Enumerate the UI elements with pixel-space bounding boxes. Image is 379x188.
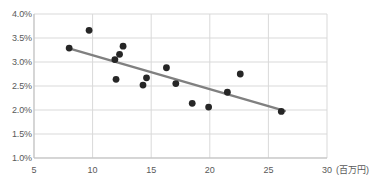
data-point	[116, 51, 123, 58]
data-point	[120, 43, 127, 50]
data-point	[224, 89, 231, 96]
chart-plot-area	[0, 0, 379, 188]
data-point	[111, 56, 118, 63]
scatter-chart: 1.0%1.5%2.0%2.5%3.0%3.5%4.0% 51015202530…	[0, 0, 379, 188]
x-axis-tick-label: 25	[256, 166, 280, 175]
x-axis-tick-label: 15	[139, 166, 163, 175]
data-point	[113, 76, 120, 83]
trendline	[72, 49, 285, 111]
data-point	[163, 64, 170, 71]
y-axis-tick-label: 2.5%	[2, 82, 32, 91]
data-point	[86, 27, 93, 34]
y-axis-tick-label: 3.0%	[2, 58, 32, 67]
data-point	[189, 100, 196, 107]
y-axis-tick-label: 3.5%	[2, 34, 32, 43]
data-point	[143, 74, 150, 81]
data-point	[140, 82, 147, 89]
x-axis-unit-label: (百万円)	[336, 166, 369, 175]
y-axis-tick-label: 2.0%	[2, 106, 32, 115]
trendline-segment	[72, 49, 285, 111]
gridlines	[34, 14, 327, 158]
data-point	[237, 71, 244, 78]
data-point	[278, 108, 285, 115]
x-axis-tick-label: 20	[198, 166, 222, 175]
x-axis-tick-label: 5	[22, 166, 46, 175]
y-axis-tick-label: 1.5%	[2, 130, 32, 139]
x-axis-tick-label: 10	[81, 166, 105, 175]
data-point	[205, 104, 212, 111]
y-axis-tick-label: 4.0%	[2, 10, 32, 19]
data-point	[66, 45, 73, 52]
data-point	[172, 80, 179, 87]
y-axis-tick-label: 1.0%	[2, 154, 32, 163]
